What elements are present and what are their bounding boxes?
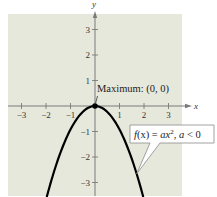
- parabola-chart: xy −3−2−1123321−1−2−3 Maximum: (0, 0) f(…: [0, 0, 217, 197]
- points: [92, 103, 98, 109]
- y-tick-label: 3: [86, 25, 91, 35]
- x-tick-label: 3: [166, 110, 171, 120]
- x-tick-label: 2: [142, 110, 147, 120]
- function-label-part: < 0: [184, 129, 200, 140]
- x-axis-label: x: [193, 101, 198, 111]
- function-label: f(x) = ax2, a < 0: [134, 128, 201, 141]
- x-tick-label: −1: [66, 110, 76, 120]
- y-tick-label: 1: [86, 76, 91, 86]
- x-axis-arrow: [185, 104, 192, 108]
- x-tick-label: 1: [117, 110, 122, 120]
- maximum-point: [92, 103, 98, 109]
- y-axis-label: y: [91, 0, 96, 9]
- y-tick-label: −1: [80, 127, 90, 137]
- function-label-part: ax: [160, 129, 170, 140]
- maximum-label: Maximum: (0, 0): [97, 83, 170, 95]
- function-label-part: (x) =: [137, 129, 160, 141]
- y-tick-label: 2: [86, 50, 91, 60]
- x-tick-label: −3: [17, 110, 27, 120]
- y-tick-label: −3: [80, 178, 90, 188]
- x-tick-label: −2: [41, 110, 51, 120]
- y-tick-label: −2: [80, 152, 90, 162]
